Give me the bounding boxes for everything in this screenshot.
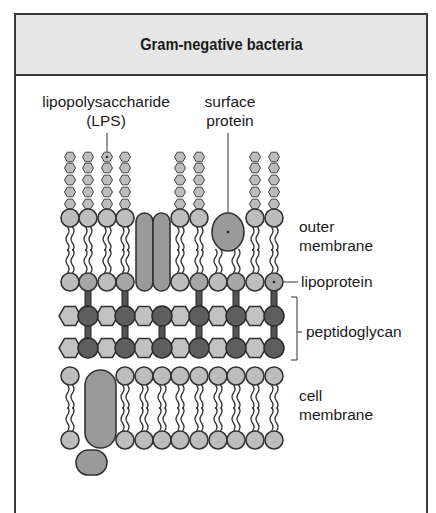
porin-protein bbox=[136, 213, 170, 291]
svg-text:membrane: membrane bbox=[299, 237, 373, 254]
lps-chains bbox=[65, 152, 280, 209]
svg-text:membrane: membrane bbox=[299, 406, 373, 423]
transmembrane-protein bbox=[85, 370, 116, 448]
lps-label: lipopolysaccharide (LPS) bbox=[42, 93, 170, 129]
svg-text:outer: outer bbox=[299, 218, 334, 235]
surface-protein-anchor-dot bbox=[227, 231, 230, 234]
outer-membrane-label: outer membrane bbox=[299, 218, 373, 254]
peptidoglycan-row-1 bbox=[59, 306, 284, 326]
outer-membrane-upper-leaflet bbox=[61, 209, 283, 251]
svg-text:lipopolysaccharide: lipopolysaccharide bbox=[42, 93, 170, 110]
peripheral-protein bbox=[76, 450, 107, 475]
outer-membrane-lower-heads bbox=[61, 273, 283, 291]
peptidoglycan-label: peptidoglycan bbox=[306, 323, 402, 340]
svg-text:surface: surface bbox=[205, 93, 256, 110]
peptidoglycan-bracket bbox=[291, 297, 302, 360]
peptidoglycan-row-2 bbox=[59, 338, 284, 358]
svg-text:(LPS): (LPS) bbox=[86, 112, 126, 129]
outer-membrane-lower-leaflet bbox=[66, 249, 278, 273]
svg-text:cell: cell bbox=[299, 387, 322, 404]
surface-protein-label: surface protein bbox=[205, 93, 256, 129]
svg-text:protein: protein bbox=[206, 112, 253, 129]
lipoprotein-label: lipoprotein bbox=[301, 273, 373, 290]
cell-membrane-label: cell membrane bbox=[299, 387, 373, 423]
